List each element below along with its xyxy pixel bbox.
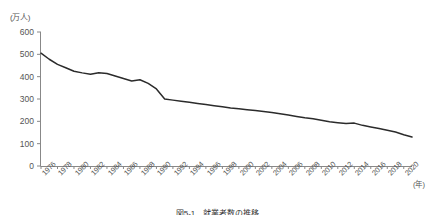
y-tick-label: 500 xyxy=(8,49,34,59)
y-tick-label: 600 xyxy=(8,27,34,37)
x-axis-unit-label: (年) xyxy=(413,178,425,189)
y-tick-label: 300 xyxy=(8,94,34,104)
y-tick-label: 100 xyxy=(8,139,34,149)
data-series-line xyxy=(41,53,412,137)
axis-lines xyxy=(41,32,413,167)
y-tick-label: 0 xyxy=(8,161,34,171)
chart-figure: (万人) 0100200300400500600 197619781980198… xyxy=(0,0,435,215)
figure-caption: 図5-1 就業者数の推移 xyxy=(0,207,435,215)
y-tick-label: 400 xyxy=(8,72,34,82)
line-chart-plot xyxy=(0,0,435,215)
y-tick-label: 200 xyxy=(8,116,34,126)
